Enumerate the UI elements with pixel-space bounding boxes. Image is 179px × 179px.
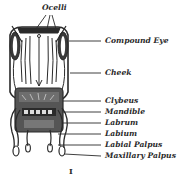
label-compound-eye: Compound Eye — [105, 37, 169, 45]
label-labrum: Labrum — [105, 119, 138, 127]
label-clybeus: Clybeus — [105, 97, 138, 105]
leader-maxillary-palpus — [64, 154, 101, 156]
label-mandible: Mandible — [105, 108, 145, 116]
label-cheek: Cheek — [105, 69, 132, 77]
figure-number: I — [69, 166, 73, 176]
insect-head-diagram: Ocelli Compound Eye Cheek Clybeus Mandib… — [0, 0, 179, 179]
label-maxillary-palpus: Maxillary Palpus — [105, 152, 176, 160]
label-labium: Labium — [105, 130, 137, 138]
label-labial-palpus: Labial Palpus — [105, 141, 162, 149]
label-ocelli: Ocelli — [42, 4, 67, 12]
